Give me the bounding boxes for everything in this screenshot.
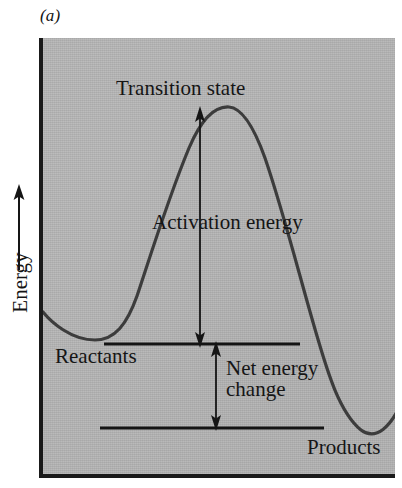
reactants-label: Reactants <box>55 346 137 367</box>
energy-profile-graphic <box>43 38 395 478</box>
figure-panel-label: (a) <box>40 6 60 26</box>
net-energy-change-arrow <box>211 341 221 431</box>
net-energy-change-label: Net energy change <box>226 358 318 401</box>
net-energy-change-label-line1: Net energy <box>226 358 318 379</box>
transition-state-label: Transition state <box>116 78 245 99</box>
activation-energy-label: Activation energy <box>152 212 303 233</box>
products-label: Products <box>307 437 381 458</box>
y-axis-label-group: Energy <box>0 150 40 350</box>
energy-diagram-plot-area: Transition state Activation energy React… <box>39 38 395 478</box>
energy-profile-curve <box>43 107 395 434</box>
net-energy-change-label-line2: change <box>226 379 318 400</box>
y-axis-title: Energy <box>8 233 33 333</box>
